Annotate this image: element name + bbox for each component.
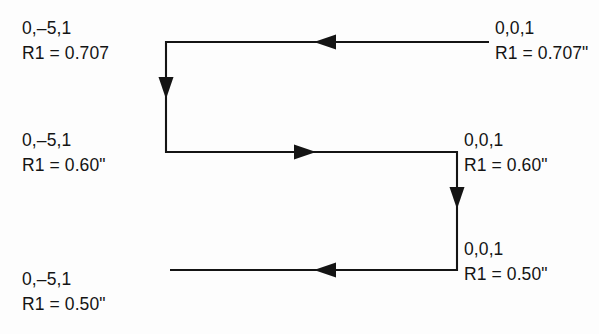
label-bottom-left-line2: R1 = 0.50"	[22, 292, 106, 317]
label-mid-left-line2: R1 = 0.60"	[22, 153, 106, 178]
label-mid-right-line2: R1 = 0.60"	[464, 153, 548, 178]
label-bottom-left-line1: 0,–5,1	[22, 267, 106, 292]
middle-arrowhead-right-icon	[294, 145, 316, 160]
label-top-left-line2: R1 = 0.707	[22, 41, 109, 66]
label-mid-right-line1: 0,0,1	[464, 128, 548, 153]
label-bottom-right-line2: R1 = 0.50"	[464, 262, 548, 287]
label-mid-left-line1: 0,–5,1	[22, 128, 106, 153]
label-top-left-line1: 0,–5,1	[22, 16, 109, 41]
label-mid-left: 0,–5,1 R1 = 0.60"	[22, 128, 106, 178]
label-top-right-line1: 0,0,1	[495, 16, 588, 41]
label-mid-right: 0,0,1 R1 = 0.60"	[464, 128, 548, 178]
left-arrowhead-down-icon	[159, 77, 174, 99]
label-bottom-left: 0,–5,1 R1 = 0.50"	[22, 267, 106, 317]
right-arrowhead-down-icon	[450, 187, 465, 209]
label-top-right: 0,0,1 R1 = 0.707"	[495, 16, 588, 66]
top-arrowhead-left-icon	[314, 35, 336, 50]
label-bottom-right: 0,0,1 R1 = 0.50"	[464, 237, 548, 287]
label-top-left: 0,–5,1 R1 = 0.707	[22, 16, 109, 66]
figure-canvas: 0,–5,1 R1 = 0.707 0,0,1 R1 = 0.707" 0,–5…	[0, 0, 599, 334]
label-bottom-right-line1: 0,0,1	[464, 237, 548, 262]
label-top-right-line2: R1 = 0.707"	[495, 41, 588, 66]
bottom-arrowhead-left-icon	[314, 263, 336, 278]
